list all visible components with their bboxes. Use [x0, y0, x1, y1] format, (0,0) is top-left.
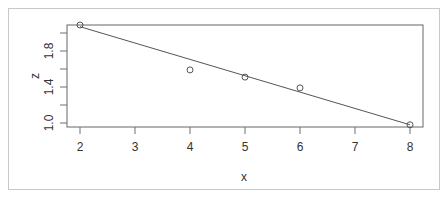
x-tick-label: 8 — [407, 140, 414, 154]
x-tick-label: 3 — [132, 140, 139, 154]
x-tick-label: 6 — [297, 140, 304, 154]
data-point-marker — [187, 67, 193, 73]
x-axis: 2345678 — [77, 127, 414, 154]
data-points — [77, 22, 413, 128]
data-point-marker — [297, 85, 303, 91]
regression-line — [80, 27, 410, 125]
x-tick-label: 4 — [187, 140, 194, 154]
x-tick-label: 5 — [242, 140, 249, 154]
y-axis: 1.01.41.8 — [42, 33, 67, 131]
x-tick-label: 2 — [77, 140, 84, 154]
y-tick-label: 1.8 — [42, 42, 56, 59]
scatter-plot: 2345678 1.01.41.8 x z — [0, 0, 448, 201]
y-tick-label: 1.0 — [42, 114, 56, 131]
y-axis-label: z — [28, 73, 42, 79]
x-tick-label: 7 — [352, 140, 359, 154]
data-point-marker — [242, 74, 248, 80]
x-axis-label: x — [241, 170, 247, 184]
y-tick-label: 1.4 — [42, 78, 56, 95]
